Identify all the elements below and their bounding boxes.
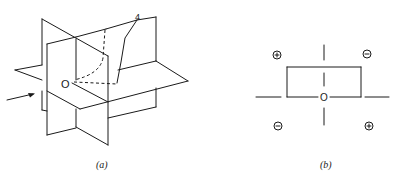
caption-a: (a) (96, 159, 108, 171)
sign-plus-bottom-right-icon (365, 122, 373, 130)
figure-a-diagram: O 4 (a) (7, 12, 188, 171)
vertical-plane-front (47, 17, 156, 135)
origin-label-a: O (61, 78, 70, 90)
sign-minus-bottom-left-icon (274, 122, 282, 130)
horizontal-plane (15, 61, 188, 109)
origin-label-b: O (320, 92, 328, 103)
sign-minus-top-right-icon (363, 50, 371, 58)
caption-b: (b) (320, 159, 332, 171)
figure-canvas: O 4 (a) O (0, 0, 394, 176)
figure-b-diagram: O (b) (256, 45, 389, 171)
surface-label: 4 (135, 12, 140, 22)
incident-arrow-icon (7, 93, 35, 100)
sign-plus-top-left-icon (273, 51, 281, 59)
origin-ray (72, 83, 108, 102)
